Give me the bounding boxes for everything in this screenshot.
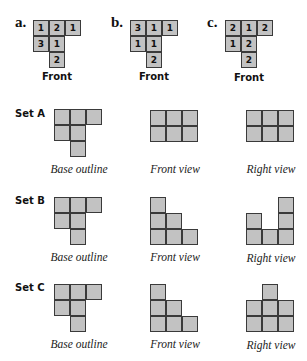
stack-height-cell: 1 [162,20,178,36]
stack-height-cell: 1 [33,20,49,36]
problem-c-label: c. [207,14,217,31]
problem-b-caption: Front [124,71,184,82]
stack-height-cell: 1 [146,36,162,52]
problem-c-caption: Front [219,72,279,83]
stack-height-cell: 2 [49,20,65,36]
stack-height-cell: 1 [130,36,146,52]
base-cell [86,197,102,213]
view-cell [278,213,294,229]
base-cell [70,229,86,245]
base-cell [70,109,86,125]
set-a-base-caption: Base outline [39,163,119,175]
view-cell [150,213,166,229]
set-c-base-caption: Base outline [39,338,119,350]
stack-height-cell: 2 [241,36,257,52]
stack-height-cell: 3 [130,20,146,36]
set-a-label: Set A [15,108,45,119]
base-cell [70,316,86,332]
view-cell [278,197,294,213]
base-cell [54,213,70,229]
problem-a-label: a. [15,14,26,31]
view-cell [150,229,166,245]
view-cell [262,300,278,316]
view-cell [246,126,262,142]
base-cell [70,284,86,300]
view-cell [150,110,166,126]
view-cell [262,316,278,332]
base-cell [54,284,70,300]
view-cell [166,110,182,126]
base-cell [86,284,102,300]
view-cell [246,110,262,126]
view-cell [278,300,294,316]
view-cell [166,316,182,332]
problem-a-caption: Front [27,71,87,82]
view-cell [246,316,262,332]
view-cell [150,197,166,213]
view-cell [246,213,262,229]
view-cell [262,284,278,300]
base-cell [70,197,86,213]
stack-height-cell: 2 [49,52,65,68]
view-cell [262,229,278,245]
set-b-base-caption: Base outline [39,251,119,263]
stack-height-cell: 2 [257,20,273,36]
view-cell [262,126,278,142]
base-cell [70,125,86,141]
set-c-label: Set C [15,282,45,293]
view-cell [150,284,166,300]
view-cell [278,229,294,245]
stack-height-cell: 2 [241,52,257,68]
base-cell [54,109,70,125]
base-cell [70,141,86,157]
view-cell [166,300,182,316]
stack-height-cell: 1 [49,36,65,52]
view-cell [278,316,294,332]
view-cell [150,316,166,332]
stack-height-cell: 1 [65,20,81,36]
view-cell [166,126,182,142]
stack-height-cell: 2 [146,52,162,68]
stack-height-cell: 1 [241,20,257,36]
base-cell [86,109,102,125]
set-c-right-caption: Right view [231,339,307,351]
view-cell [278,110,294,126]
view-cell [246,229,262,245]
view-cell [182,110,198,126]
set-b-label: Set B [15,195,45,206]
stack-height-cell: 1 [146,20,162,36]
view-cell [262,110,278,126]
base-cell [70,213,86,229]
base-cell [54,300,70,316]
stack-height-cell: 1 [225,36,241,52]
set-a-right-caption: Right view [231,163,307,175]
view-cell [182,126,198,142]
view-cell [150,126,166,142]
base-cell [54,125,70,141]
set-a-front-caption: Front view [135,163,215,175]
set-b-right-caption: Right view [231,252,307,264]
view-cell [182,316,198,332]
set-c-front-caption: Front view [135,338,215,350]
view-cell [166,229,182,245]
view-cell [166,213,182,229]
problem-b-label: b. [111,14,123,31]
stack-height-cell: 3 [33,36,49,52]
view-cell [246,300,262,316]
view-cell [278,126,294,142]
set-b-front-caption: Front view [135,251,215,263]
stack-height-cell: 2 [225,20,241,36]
view-cell [150,300,166,316]
base-cell [54,197,70,213]
base-cell [70,300,86,316]
view-cell [182,229,198,245]
